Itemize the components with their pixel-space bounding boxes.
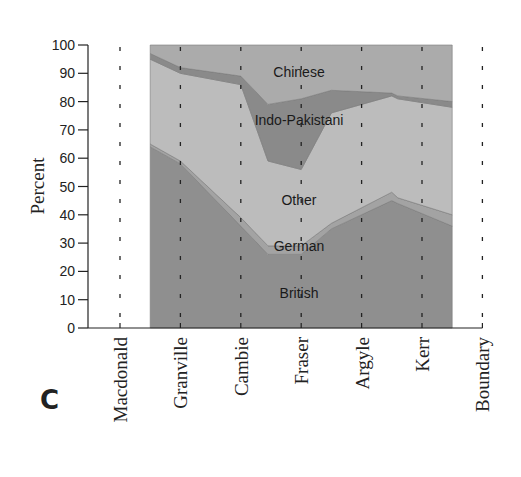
area-label-british: British <box>280 285 319 301</box>
y-tick-label: 90 <box>59 65 75 81</box>
y-tick-label: 70 <box>59 122 75 138</box>
y-tick-label: 30 <box>59 235 75 251</box>
y-tick-label: 10 <box>59 292 75 308</box>
x-tick-label-macdonald: Macdonald <box>110 337 131 423</box>
y-tick-label: 50 <box>59 179 75 195</box>
x-axis: MacdonaldGranvilleCambieFraserArgyleKerr… <box>88 323 493 422</box>
y-tick-label: 80 <box>59 94 75 110</box>
area-label-other: Other <box>281 192 316 208</box>
x-tick-label-cambie: Cambie <box>231 337 252 396</box>
y-tick-label: 60 <box>59 150 75 166</box>
x-tick-label-fraser: Fraser <box>291 336 312 384</box>
y-tick-label: 0 <box>67 320 75 336</box>
area-label-indo-pakistani: Indo-Pakistani <box>255 112 344 128</box>
y-tick-label: 100 <box>52 37 76 53</box>
area-label-german: German <box>274 238 325 254</box>
x-tick-label-granville: Granville <box>170 337 191 409</box>
y-axis-title: Percent <box>27 157 48 215</box>
panel-label: C <box>40 385 59 415</box>
stacked-area-chart: ChineseIndo-PakistaniOtherGermanBritish … <box>0 0 521 477</box>
x-tick-label-argyle: Argyle <box>352 337 373 389</box>
y-tick-label: 40 <box>59 207 75 223</box>
x-tick-label-boundary: Boundary <box>472 337 493 412</box>
x-tick-label-kerr: Kerr <box>412 336 433 371</box>
area-label-chinese: Chinese <box>273 64 325 80</box>
y-tick-label: 20 <box>59 263 75 279</box>
y-axis: 0102030405060708090100 <box>52 37 88 336</box>
